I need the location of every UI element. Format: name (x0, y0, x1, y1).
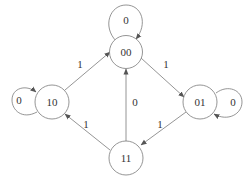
state-diagram: 0 0 0 1 1 1 1 0 00 10 (0, 0, 250, 182)
edge-00-01: 1 (141, 58, 184, 97)
edge-11-00: 0 (126, 69, 138, 141)
state-node-11: 11 (109, 141, 143, 175)
self-loop-10: 0 (12, 88, 37, 115)
edge-label-01-01: 0 (230, 96, 236, 108)
state-node-00: 00 (110, 36, 143, 69)
edge-11-10: 1 (65, 114, 110, 150)
edge-01-11: 1 (141, 112, 186, 145)
edge-10-00: 1 (65, 52, 110, 90)
self-loop-01: 0 (214, 89, 242, 118)
node-label-00: 00 (121, 46, 133, 58)
node-label-01: 01 (195, 96, 206, 108)
edge-label-01-11: 1 (157, 118, 163, 130)
node-label-11: 11 (121, 152, 132, 164)
node-label-10: 10 (47, 96, 59, 108)
edge-label-10-10: 0 (16, 94, 22, 106)
edge-label-11-00: 0 (132, 96, 138, 108)
edge-label-00-00: 0 (123, 14, 129, 26)
edge-label-10-00: 1 (77, 58, 83, 70)
edge-label-11-10: 1 (83, 118, 89, 130)
state-node-10: 10 (35, 85, 69, 119)
edge-label-00-01: 1 (163, 58, 169, 70)
state-node-01: 01 (183, 85, 217, 119)
